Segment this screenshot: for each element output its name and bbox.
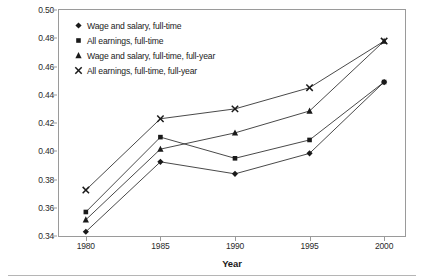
x-tick-mark (160, 237, 161, 241)
data-point-marker (84, 210, 89, 215)
triangle-marker-icon (72, 49, 85, 62)
legend-item-label: All earnings, full-time (85, 36, 163, 46)
chart-legend: Wage and salary, full-timeAll earnings, … (72, 18, 215, 78)
x-axis-title: Year (58, 258, 406, 269)
y-tick-label: 0.48 (20, 33, 54, 43)
y-tick-label: 0.50 (20, 5, 54, 15)
y-tick-label: 0.46 (20, 62, 54, 72)
cross-marker-icon (72, 64, 85, 77)
square-marker-icon (72, 34, 85, 47)
y-tick-label: 0.36 (20, 203, 54, 213)
chart-figure: BA-high school wage gap 0.340.360.380.40… (0, 0, 424, 280)
data-point-marker (307, 138, 312, 143)
data-point-marker (232, 171, 238, 177)
footer-rule (8, 275, 416, 276)
legend-item-label: Wage and salary, full-time, full-year (85, 51, 215, 61)
legend-item-label: All earnings, full-time, full-year (85, 66, 197, 76)
y-tick-mark (52, 10, 57, 11)
legend-item[interactable]: All earnings, full-time, full-year (72, 63, 215, 78)
y-axis-title: BA-high school wage gap (0, 0, 18, 18)
legend-item[interactable]: All earnings, full-time (72, 33, 215, 48)
x-tick-mark (384, 237, 385, 241)
legend-item[interactable]: Wage and salary, full-time (72, 18, 215, 33)
x-tick-mark (235, 237, 236, 241)
y-tick-mark (52, 123, 57, 124)
data-point-marker (158, 135, 163, 140)
data-point-marker (233, 156, 238, 161)
x-tick-mark (86, 237, 87, 241)
x-tick-label: 1995 (288, 241, 332, 251)
y-tick-mark (52, 94, 57, 95)
x-tick-label: 1990 (213, 241, 257, 251)
y-tick-label: 0.34 (20, 231, 54, 241)
y-tick-mark (52, 236, 57, 237)
x-tick-label: 1980 (64, 241, 108, 251)
series-group (84, 80, 387, 215)
diamond-marker-icon (72, 19, 85, 32)
y-tick-label: 0.42 (20, 118, 54, 128)
y-tick-label: 0.44 (20, 90, 54, 100)
x-tick-mark (310, 237, 311, 241)
y-tick-mark (52, 66, 57, 67)
data-point-marker (382, 80, 387, 85)
data-point-marker (306, 84, 312, 90)
y-tick-mark (52, 207, 57, 208)
y-tick-label: 0.40 (20, 146, 54, 156)
legend-item[interactable]: Wage and salary, full-time, full-year (72, 48, 215, 63)
y-tick-mark (52, 151, 57, 152)
data-point-marker (83, 187, 89, 193)
y-tick-mark (52, 38, 57, 39)
y-tick-mark (52, 179, 57, 180)
legend-item-label: Wage and salary, full-time (85, 21, 182, 31)
x-tick-label: 2000 (362, 241, 406, 251)
y-tick-label: 0.38 (20, 175, 54, 185)
x-tick-label: 1985 (138, 241, 182, 251)
